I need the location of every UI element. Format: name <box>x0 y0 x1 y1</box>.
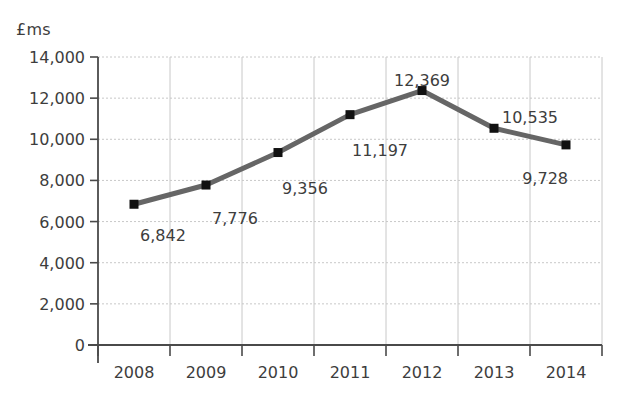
x-axis-tick-label: 2014 <box>546 363 587 382</box>
plot-area <box>0 0 617 399</box>
y-axis-tick-label: 6,000 <box>39 212 85 231</box>
data-point-marker <box>202 181 211 190</box>
data-point-marker <box>562 140 571 149</box>
x-axis-tick-label: 2010 <box>258 363 299 382</box>
y-axis-tick-label: 10,000 <box>29 130 85 149</box>
data-point-marker <box>274 148 283 157</box>
y-axis-tick-label: 8,000 <box>39 171 85 190</box>
data-point-label: 9,728 <box>522 169 568 188</box>
y-axis-tick-label: 2,000 <box>39 294 85 313</box>
data-point-marker <box>130 200 139 209</box>
data-point-label: 7,776 <box>212 209 258 228</box>
data-point-label: 10,535 <box>502 108 558 127</box>
data-point-label: 12,369 <box>394 71 450 90</box>
x-axis-tick-label: 2012 <box>402 363 443 382</box>
axis-lines <box>88 57 602 363</box>
axis-ticks <box>90 57 602 356</box>
data-point-label: 6,842 <box>140 226 186 245</box>
y-axis-tick-label: 12,000 <box>29 89 85 108</box>
data-point-label: 11,197 <box>352 141 408 160</box>
x-axis-tick-label: 2013 <box>474 363 515 382</box>
x-axis-tick-label: 2009 <box>186 363 227 382</box>
x-axis-tick-label: 2011 <box>330 363 371 382</box>
data-point-marker <box>490 124 499 133</box>
y-axis-tick-label: 4,000 <box>39 253 85 272</box>
y-axis-tick-label: 14,000 <box>29 48 85 67</box>
data-point-label: 9,356 <box>282 179 328 198</box>
data-point-marker <box>346 110 355 119</box>
y-axis-tick-label: 0 <box>75 336 85 355</box>
line-chart: £ms 02,0004,0006,0008,00010,00012,00014,… <box>0 0 617 399</box>
x-axis-tick-label: 2008 <box>114 363 155 382</box>
